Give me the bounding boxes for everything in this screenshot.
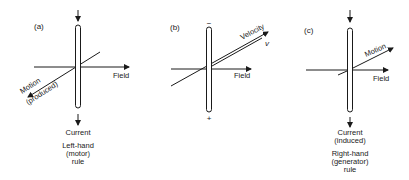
panel-b-label: (b) bbox=[170, 23, 180, 32]
positive-sign: + bbox=[207, 114, 212, 123]
panel-a: (a) Field Motion (produced) Current Left… bbox=[18, 10, 129, 166]
current-sub-label: (induced) bbox=[334, 136, 366, 145]
current-label: Current bbox=[65, 128, 91, 137]
panel-a-label: (a) bbox=[34, 22, 44, 31]
field-label: Field bbox=[373, 74, 389, 83]
panel-b: (b) − Field Velocity v + bbox=[170, 19, 270, 123]
conductor bbox=[207, 27, 212, 112]
hand-rules-diagram: (a) Field Motion (produced) Current Left… bbox=[0, 0, 409, 180]
conductor bbox=[76, 25, 81, 108]
motion-back-segment bbox=[338, 71, 347, 75]
rule-line-3: rule bbox=[72, 157, 85, 166]
velocity-label: Velocity bbox=[239, 22, 266, 42]
velocity-arrow-icon bbox=[171, 32, 268, 86]
velocity-symbol: v bbox=[265, 39, 270, 48]
panel-c-label: (c) bbox=[304, 26, 314, 35]
field-label: Field bbox=[113, 71, 129, 80]
motion-label: Motion bbox=[363, 41, 387, 58]
field-label: Field bbox=[234, 71, 250, 80]
panel-c: (c) Field Motion Current (induced) Right… bbox=[304, 10, 393, 174]
velocity-front-segment bbox=[212, 38, 262, 66]
conductor bbox=[348, 28, 353, 112]
rule-line-3: rule bbox=[344, 165, 357, 174]
